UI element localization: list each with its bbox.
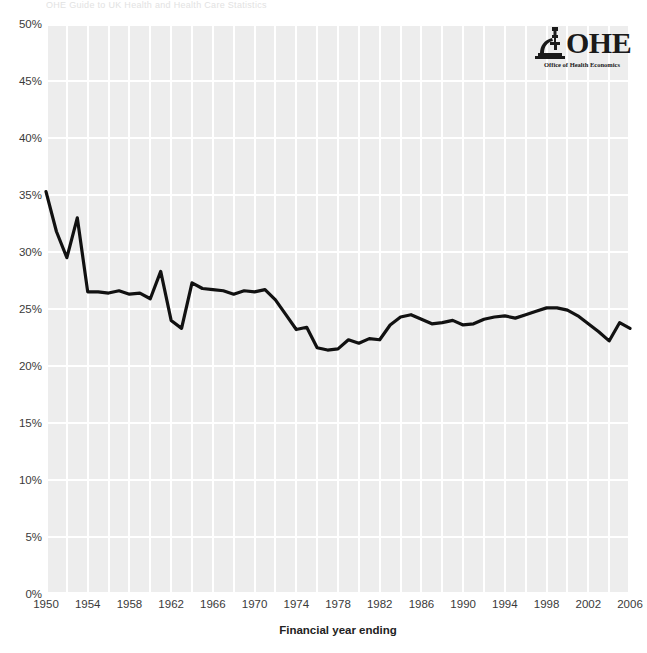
y-axis-tick-label: 20% [2, 361, 42, 372]
logo-subtitle: Office of Health Economics [530, 61, 634, 68]
y-axis: 50%45%40%35%30%25%20%15%10%5%0% [0, 0, 42, 653]
data-line-svg [46, 24, 630, 594]
y-axis-tick-label: 10% [2, 475, 42, 486]
x-axis-title: Financial year ending [46, 624, 630, 636]
plot-area [46, 24, 630, 594]
y-axis-tick-label: 50% [2, 19, 42, 30]
ohe-logo: OHE Office of Health Economics [530, 26, 634, 72]
top-note: OHE Guide to UK Health and Health Care S… [46, 0, 346, 12]
y-axis-tick-label: 40% [2, 133, 42, 144]
y-axis-tick-label: 30% [2, 247, 42, 258]
x-axis: 1950195419581962196619701974197819821986… [0, 598, 640, 618]
logo-wordmark: OHE [566, 28, 631, 58]
y-axis-tick-label: 45% [2, 76, 42, 87]
y-axis-tick-label: 25% [2, 304, 42, 315]
y-axis-tick-label: 5% [2, 532, 42, 543]
microscope-icon [532, 26, 568, 60]
x-axis-tick-label: 2006 [605, 598, 647, 610]
series-line-share-of-total-nhs-expenditure [46, 192, 630, 350]
y-axis-tick-label: 15% [2, 418, 42, 429]
y-axis-tick-label: 35% [2, 190, 42, 201]
